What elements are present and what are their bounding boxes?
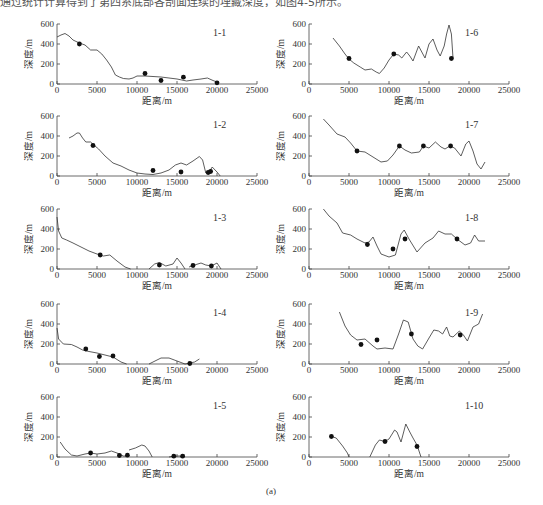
y-tick-label: 600 (293, 19, 307, 29)
x-tick-label: 5000 (88, 270, 107, 280)
x-tick-label: 25000 (498, 85, 521, 95)
borehole-point (179, 170, 184, 175)
borehole-point (365, 242, 370, 247)
borehole-point (111, 354, 116, 359)
x-tick-label: 25000 (498, 458, 521, 468)
y-tick-label: 0 (302, 452, 307, 462)
x-tick-label: 0 (55, 270, 60, 280)
borehole-point (391, 52, 396, 57)
borehole-point (208, 169, 213, 174)
panel-label: 1-1 (213, 27, 226, 38)
x-axis-label: 距离/m (142, 468, 173, 479)
x-axis-label: 距离/m (142, 95, 173, 106)
borehole-point (97, 354, 102, 359)
x-tick-label: 0 (307, 365, 312, 375)
x-tick-label: 25000 (498, 270, 521, 280)
y-tick-label: 600 (41, 299, 55, 309)
y-tick-label: 200 (41, 244, 55, 254)
x-axis-label: 距离/m (394, 95, 425, 106)
x-tick-label: 20000 (206, 177, 229, 187)
x-tick-label: 10000 (378, 85, 401, 95)
borehole-point (143, 71, 148, 76)
y-tick-label: 200 (41, 151, 55, 161)
x-tick-label: 15000 (418, 270, 441, 280)
x-tick-label: 0 (55, 365, 60, 375)
y-tick-label: 0 (302, 264, 307, 274)
x-tick-label: 20000 (206, 458, 229, 468)
x-tick-label: 25000 (246, 85, 269, 95)
x-tick-label: 0 (307, 458, 312, 468)
y-tick-label: 600 (41, 392, 55, 402)
borehole-point (455, 237, 460, 242)
x-axis-label: 距离/m (394, 280, 425, 291)
x-tick-label: 20000 (206, 270, 229, 280)
y-axis-label: 深度/m (275, 411, 286, 442)
y-tick-label: 400 (293, 224, 307, 234)
y-tick-label: 400 (293, 412, 307, 422)
panel-1-6: 02004006000500010000150002000025000距离/m深… (275, 19, 521, 106)
x-tick-label: 5000 (88, 177, 107, 187)
x-tick-label: 15000 (418, 177, 441, 187)
x-tick-label: 0 (55, 177, 60, 187)
y-tick-label: 0 (302, 171, 307, 181)
depth-profile-line (69, 133, 220, 176)
x-tick-label: 15000 (418, 458, 441, 468)
borehole-point (215, 80, 220, 85)
x-tick-label: 5000 (88, 85, 107, 95)
borehole-point (383, 439, 388, 444)
x-tick-label: 10000 (378, 270, 401, 280)
depth-profile-line (331, 437, 349, 458)
panel-label: 1-7 (465, 119, 478, 130)
x-tick-label: 20000 (458, 458, 481, 468)
x-tick-label: 20000 (458, 365, 481, 375)
x-tick-label: 15000 (166, 458, 189, 468)
borehole-point (449, 56, 454, 61)
x-tick-label: 10000 (126, 365, 149, 375)
y-tick-label: 400 (293, 39, 307, 49)
y-axis-label: 深度/m (275, 318, 286, 349)
y-tick-label: 0 (50, 79, 55, 89)
x-axis-label: 距离/m (142, 187, 173, 198)
y-tick-label: 400 (41, 319, 55, 329)
x-axis-label: 距离/m (394, 187, 425, 198)
borehole-point (125, 453, 130, 458)
x-tick-label: 25000 (246, 177, 269, 187)
borehole-point (191, 263, 196, 268)
depth-profile-line (333, 25, 453, 74)
x-tick-label: 20000 (458, 177, 481, 187)
x-tick-label: 0 (307, 270, 312, 280)
x-axis-label: 距离/m (394, 468, 425, 479)
borehole-point (355, 149, 360, 154)
borehole-point (391, 247, 396, 252)
y-tick-label: 200 (41, 59, 55, 69)
panel-label: 1-10 (465, 400, 483, 411)
figure-caption: (a) (266, 486, 276, 496)
x-tick-label: 10000 (126, 270, 149, 280)
y-tick-label: 600 (41, 19, 55, 29)
panel-1-3: 02004006000500010000150002000025000距离/m深… (23, 204, 269, 291)
depth-profile-line (57, 217, 131, 269)
y-axis-label: 深度/m (23, 318, 34, 349)
y-tick-label: 600 (293, 204, 307, 214)
x-tick-label: 5000 (88, 365, 107, 375)
y-tick-label: 200 (293, 339, 307, 349)
x-tick-label: 25000 (246, 458, 269, 468)
y-axis-label: 深度/m (23, 223, 34, 254)
panel-label: 1-3 (213, 212, 226, 223)
borehole-point (181, 75, 186, 80)
depth-profile-line (323, 209, 485, 257)
y-tick-label: 0 (50, 452, 55, 462)
y-tick-label: 400 (41, 412, 55, 422)
borehole-point (421, 144, 426, 149)
borehole-point (448, 144, 453, 149)
borehole-point (397, 144, 402, 149)
panel-1-4: 02004006000500010000150002000025000距离/m深… (23, 299, 269, 386)
x-tick-label: 10000 (126, 177, 149, 187)
x-tick-label: 10000 (378, 365, 401, 375)
panel-1-7: 02004006000500010000150002000025000距离/m深… (275, 111, 521, 198)
x-tick-label: 15000 (166, 177, 189, 187)
y-axis-label: 深度/m (275, 223, 286, 254)
x-tick-label: 25000 (498, 177, 521, 187)
y-tick-label: 400 (41, 131, 55, 141)
borehole-point (171, 454, 176, 459)
